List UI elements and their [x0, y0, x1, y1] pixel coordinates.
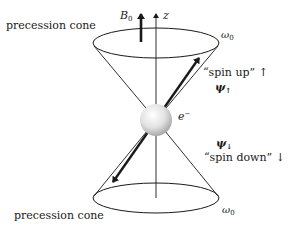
- top-cone-label: precession cone: [6, 20, 96, 31]
- psi-up-label: ψ↑: [215, 82, 231, 94]
- spin-down-label: “spin down” ↓: [204, 152, 285, 163]
- spin-up-label: “spin up” ↑: [203, 67, 268, 78]
- precession-diagram: [0, 0, 293, 233]
- psi-down-label: ψ↓: [216, 138, 232, 150]
- z-axis-label: z: [163, 10, 169, 21]
- b0-label: B0: [120, 10, 133, 23]
- spin-down-arrow-icon: [113, 132, 148, 182]
- omega-bottom-label: ω0: [222, 205, 235, 217]
- electron-sphere: [140, 104, 172, 136]
- electron-label: e−: [178, 111, 190, 122]
- bottom-cone-label: precession cone: [14, 210, 104, 221]
- spin-up-arrow-icon: [164, 58, 199, 108]
- omega-top-label: ω0: [221, 30, 234, 42]
